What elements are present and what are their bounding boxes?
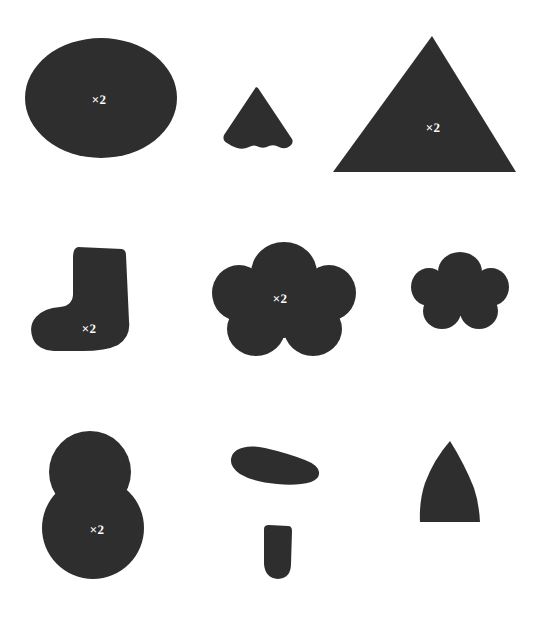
rounded-tab-shape [262, 524, 293, 579]
boot-shape [30, 247, 132, 351]
ellipse-piece[interactable] [25, 38, 177, 158]
large-flower-shape [213, 240, 355, 356]
two-stacked-circles-shape [42, 431, 144, 579]
pointed-arch-piece[interactable] [419, 441, 480, 523]
scalloped-cone-shape [218, 87, 296, 151]
rounded-tab-piece[interactable] [262, 524, 293, 579]
scalloped-cone-piece[interactable] [218, 87, 296, 151]
crescent-shape [231, 446, 319, 485]
boot-sock-piece[interactable] [30, 247, 132, 351]
crescent-lip-piece[interactable] [231, 446, 319, 485]
small-flower-piece[interactable] [412, 251, 508, 329]
large-flower-piece[interactable] [213, 240, 355, 356]
small-flower-shape [412, 251, 508, 329]
ellipse-shape [25, 38, 177, 158]
pointed-arch-shape [419, 441, 480, 523]
triangle-piece[interactable] [333, 36, 516, 173]
double-circle-snowman-piece[interactable] [42, 431, 144, 579]
pattern-sheet: ×2 ×2 ×2 ×2 [0, 0, 540, 619]
triangle-shape [333, 36, 516, 173]
